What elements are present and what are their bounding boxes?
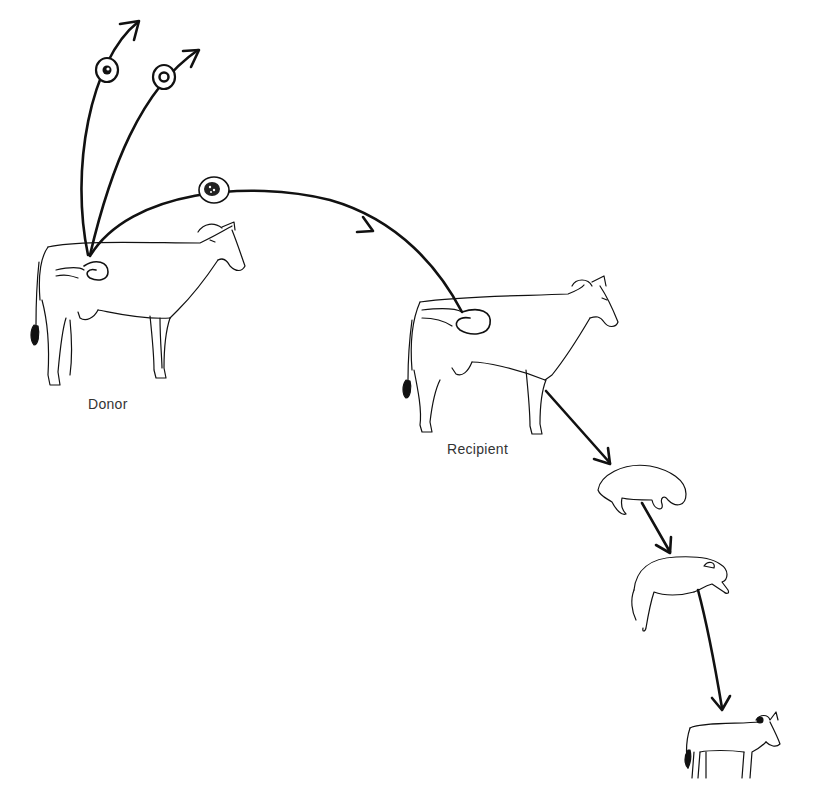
- figure-caption-clipped: [40, 803, 380, 809]
- embryo-icon-1: [96, 58, 118, 82]
- donor-label: Donor: [88, 396, 128, 412]
- embryo-icon-2: [153, 65, 175, 89]
- fetus-early-illustration: [598, 465, 686, 514]
- embryo-flush-arrow-1: [81, 21, 139, 255]
- calf-illustration: [685, 712, 780, 778]
- birth-arrow: [698, 590, 730, 710]
- recipient-label: Recipient: [447, 441, 508, 457]
- embryo-transfer-arrow: [90, 191, 462, 312]
- gestation-arrow-1: [546, 391, 610, 464]
- recipient-cow-illustration: [403, 276, 618, 434]
- embryo-icon-3: [199, 177, 229, 203]
- fetus-late-illustration: [632, 557, 729, 631]
- donor-cow-illustration: [31, 222, 245, 385]
- embryo-transfer-diagram: Donor Recipient: [0, 0, 814, 809]
- gestation-arrow-2: [642, 503, 671, 553]
